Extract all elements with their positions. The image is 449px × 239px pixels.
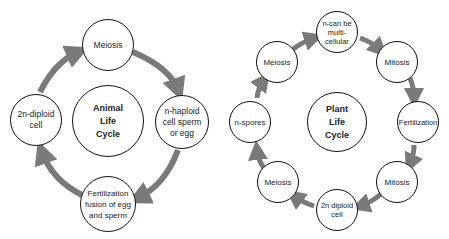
plant-node-meiosis-2: Meiosis [257,161,299,203]
animal-node-fertilization: Fertilizationfusion of eggand sperm [80,176,136,232]
plant-node-diploid: 2n diploidcell [316,189,358,231]
animal-node-diploid: 2n-diploidcell [10,94,62,146]
plant-node-multicellular: n-can bemulti-cellular [316,11,358,53]
arrow-fertilization-to-diploid [42,152,82,195]
plant-life-cycle-label: PlantLifeCycle [307,92,367,152]
plant-node-mitosis-1: Mitosis [376,41,418,83]
animal-node-haploid: n-haploidcell spermor egg [155,95,209,149]
animal-life-cycle-label: AnimalLifeCycle [72,85,144,157]
plant-node-fertilization: Fertilization [397,101,439,143]
plant-node-spores: n-spores [229,101,271,143]
plant-node-meiosis-1: Meiosis [256,41,298,83]
animal-node-meiosis: Meiosis [82,19,134,71]
arrow-haploid-to-fertilization [138,150,178,198]
arrow-meiosis-to-haploid [133,52,178,90]
cycle-arrows [0,0,449,239]
plant-node-mitosis-2: Mitosis [376,161,418,203]
arrow-diploid-to-meiosis [40,52,78,92]
